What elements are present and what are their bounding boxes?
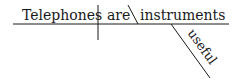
- modifier-word: useful: [185, 26, 221, 67]
- verb-word: are: [107, 7, 130, 23]
- sentence-diagram: Telephones are instruments useful: [0, 0, 238, 83]
- subject-word: Telephones: [22, 7, 102, 23]
- predicate-nominative-word: instruments: [140, 7, 225, 23]
